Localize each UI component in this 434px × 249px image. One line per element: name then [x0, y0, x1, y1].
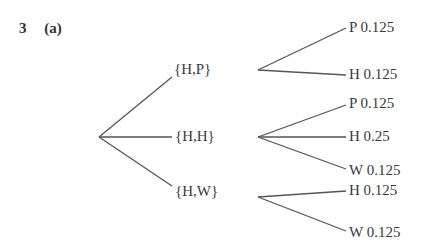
leaf-line	[258, 28, 346, 70]
leaf-line	[258, 70, 346, 75]
tree-node-label: {H,P}	[174, 61, 211, 78]
tree-leaf-label: P 0.125	[349, 95, 394, 112]
tree-node-label: {H,H}	[175, 128, 215, 145]
leaf-line	[258, 137, 346, 169]
tree-leaf-label: P 0.125	[349, 19, 394, 36]
tree-leaf-label: W 0.125	[349, 224, 400, 241]
leaf-line	[258, 197, 346, 231]
branch-line	[99, 77, 172, 137]
tree-leaf-label: H 0.25	[349, 128, 390, 145]
tree-node-label: {H,W}	[175, 183, 218, 200]
leaf-line	[258, 105, 346, 137]
branch-line	[99, 137, 172, 186]
tree-leaf-label: W 0.125	[349, 162, 400, 179]
tree-diagram-lines	[0, 0, 434, 249]
tree-leaf-label: H 0.125	[349, 66, 397, 83]
leaf-line	[258, 191, 346, 197]
tree-leaf-label: H 0.125	[349, 182, 397, 199]
